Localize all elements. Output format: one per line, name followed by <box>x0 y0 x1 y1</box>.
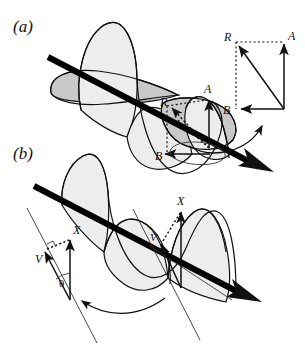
vector-B-label: B <box>155 149 163 163</box>
panel-a-group: (a) A B <box>13 17 296 173</box>
panel-a-label: (a) <box>13 17 33 36</box>
figure-svg: (a) A B <box>0 0 305 364</box>
vector-V-left-arrow <box>45 252 70 300</box>
right-angle-mark <box>47 241 56 247</box>
vector-A-label: A <box>203 82 212 96</box>
inset-vector-parallelogram: R A B <box>223 29 296 117</box>
inset-label-R: R <box>223 30 232 44</box>
panel-b-label: (b) <box>13 144 33 163</box>
detail-callout-arrow <box>82 298 165 313</box>
vector-projection-dotted-left <box>47 240 69 249</box>
theta-label: θ <box>59 277 64 289</box>
vector-X-left-label: X <box>72 223 81 237</box>
inset-vector-R <box>239 46 284 109</box>
inset-label-B: B <box>223 103 231 117</box>
vector-V-left-label: V <box>35 252 44 266</box>
panel-b-group: (b) X V <box>13 144 262 343</box>
inset-label-A: A <box>287 29 296 43</box>
figure-container: (a) A B <box>0 0 305 364</box>
vector-X-right-label: X <box>176 194 185 208</box>
